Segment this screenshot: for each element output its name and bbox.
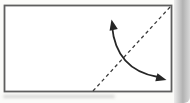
fold-diagram bbox=[0, 0, 190, 103]
paper bbox=[5, 6, 172, 92]
origami-diagram-stage bbox=[0, 0, 190, 103]
